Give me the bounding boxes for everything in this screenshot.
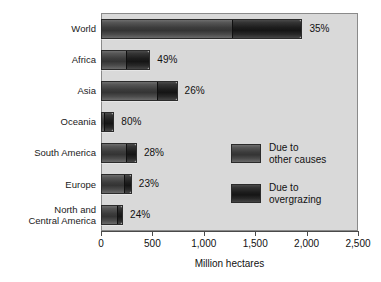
- bar-segment-other-causes: [102, 144, 126, 162]
- y-axis-label: North and Central America: [0, 204, 96, 227]
- legend-item-overgrazing: Due to overgrazing: [231, 182, 349, 212]
- x-axis-tick: [307, 231, 308, 236]
- y-axis-label: Africa: [0, 54, 96, 66]
- y-axis-label: World: [0, 23, 96, 35]
- bar-segment-overgrazing: [157, 82, 176, 100]
- bar-value-label: 28%: [144, 143, 164, 163]
- bar: [101, 50, 150, 70]
- y-axis-label: South America: [0, 147, 96, 159]
- x-axis-tick-label: 500: [144, 238, 161, 249]
- y-axis-label: Oceania: [0, 116, 96, 128]
- y-axis-label: Asia: [0, 85, 96, 97]
- legend-label-overgrazing: Due to overgrazing: [269, 182, 321, 205]
- bar-value-label: 49%: [157, 50, 177, 70]
- bar: [101, 112, 114, 132]
- bar-chart: WorldAfricaAsiaOceaniaSouth AmericaEurop…: [0, 0, 381, 282]
- x-axis-title: Million hectares: [101, 258, 358, 269]
- bar-value-label: 80%: [121, 112, 141, 132]
- bar: [101, 19, 302, 39]
- bar-value-label: 35%: [309, 19, 329, 39]
- bar: [101, 143, 137, 163]
- bar-segment-other-causes: [102, 82, 157, 100]
- legend-swatch-overgrazing: [231, 184, 261, 203]
- bar-segment-other-causes: [102, 175, 124, 193]
- x-axis-tick-label: 0: [98, 238, 104, 249]
- bar-segment-other-causes: [102, 20, 232, 38]
- bar-value-label: 24%: [130, 205, 150, 225]
- legend-swatch-other-causes: [231, 144, 261, 163]
- bar-value-label: 23%: [139, 174, 159, 194]
- bar: [101, 81, 178, 101]
- bar-segment-other-causes: [102, 206, 117, 224]
- bar-segment-overgrazing: [124, 175, 131, 193]
- x-axis-tick: [255, 231, 256, 236]
- bar-segment-overgrazing: [126, 51, 149, 69]
- bar-segment-overgrazing: [104, 113, 113, 131]
- x-axis-tick-label: 1,500: [243, 238, 268, 249]
- x-axis-tick: [101, 231, 102, 236]
- bar-segment-overgrazing: [232, 20, 302, 38]
- x-axis-tick: [204, 231, 205, 236]
- x-axis-tick-label: 1,000: [191, 238, 216, 249]
- bar-segment-overgrazing: [126, 144, 136, 162]
- legend-item-other-causes: Due to other causes: [231, 142, 349, 172]
- y-axis-label: Europe: [0, 179, 96, 191]
- x-axis-tick: [152, 231, 153, 236]
- bar: [101, 205, 123, 225]
- x-axis-tick: [358, 231, 359, 236]
- bar-value-label: 26%: [185, 81, 205, 101]
- bar: [101, 174, 132, 194]
- bar-segment-other-causes: [102, 51, 126, 69]
- x-axis-tick-label: 2,500: [345, 238, 370, 249]
- x-axis-line: [101, 231, 358, 232]
- legend: Due to other causes Due to overgrazing: [231, 142, 349, 222]
- bar-segment-overgrazing: [117, 206, 122, 224]
- legend-label-other-causes: Due to other causes: [269, 142, 326, 165]
- y-axis-labels: WorldAfricaAsiaOceaniaSouth AmericaEurop…: [0, 13, 96, 231]
- x-axis-tick-label: 2,000: [294, 238, 319, 249]
